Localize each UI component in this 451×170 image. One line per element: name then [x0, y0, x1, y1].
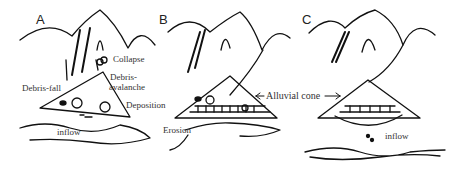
- panel-label-c: C: [302, 13, 311, 26]
- label-alluvial-cone: Alluvial cone: [266, 91, 320, 101]
- label-inflow-c: inflow: [385, 132, 409, 141]
- label-debris-avalanche-1: Debris-: [110, 73, 137, 82]
- panel-c-drawing: [305, 10, 445, 160]
- label-collapse: Collapse: [113, 55, 145, 64]
- label-debris-fall: Debris-fall: [22, 84, 61, 93]
- panel-label-a: A: [36, 13, 45, 26]
- label-debris-avalanche-2: avalanche: [109, 83, 145, 92]
- label-inflow-a: inflow: [57, 128, 81, 137]
- panel-label-b: B: [159, 13, 168, 26]
- label-deposition: Deposition: [126, 101, 166, 110]
- label-erosion: Erosion: [163, 126, 191, 135]
- diagram-drawing: [0, 0, 451, 170]
